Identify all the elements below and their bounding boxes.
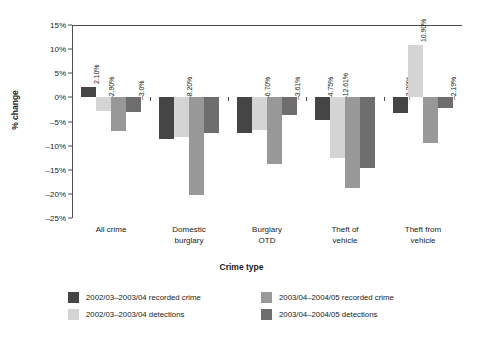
y-tick-mark — [68, 193, 72, 194]
legend-item: 2003/04–2004/05 recorded crime — [261, 289, 448, 306]
legend-label: 2002/03–2003/04 detections — [86, 310, 184, 319]
bar — [423, 97, 438, 143]
y-tick-mark — [68, 145, 72, 146]
y-axis-title: % change — [10, 70, 20, 150]
bar-value-label: 10.90% — [420, 19, 427, 42]
bar-value-label: –2.19% — [450, 77, 457, 100]
y-tick-label: 5% — [54, 69, 66, 78]
bar — [267, 97, 282, 163]
y-tick-label: 15% — [50, 21, 66, 30]
bar-value-label: –3.0% — [138, 81, 145, 100]
chart-legend: 2002/03–2003/04 recorded crime2003/04–20… — [68, 289, 468, 323]
y-tick-mark — [68, 73, 72, 74]
y-tick-mark — [68, 97, 72, 98]
bar — [174, 97, 189, 137]
bar-value-label: –20.19% — [201, 73, 208, 100]
bar — [237, 97, 252, 133]
bar — [189, 97, 204, 194]
category-tick-mark — [306, 97, 307, 101]
bar-value-label: –3.61% — [294, 77, 301, 100]
bar-group: 2.10%–2.90%–6.95%–3.0% — [81, 25, 141, 218]
legend-swatch — [261, 292, 272, 303]
bar — [159, 97, 174, 138]
bar-value-label: –18.76% — [357, 73, 364, 100]
category-label-line: vehicle — [373, 235, 473, 246]
bar — [111, 97, 126, 131]
bar-group: –7.40%–6.70%–13.78%–3.61% — [237, 25, 297, 218]
category-tick-mark — [228, 97, 229, 101]
bar-chart: % change Crime type 15%10%5%0%–5%–10%–15… — [0, 0, 483, 341]
x-axis-title: Crime type — [0, 262, 483, 272]
y-tick-mark — [68, 25, 72, 26]
legend-item: 2003/04–2004/05 detections — [261, 306, 448, 323]
bar-group: –3.20%10.90%–9.51%–2.19% — [393, 25, 453, 218]
bar-value-label: –7.29% — [216, 77, 223, 100]
category-tick-mark — [384, 97, 385, 101]
y-tick-label: –15% — [46, 165, 66, 174]
y-tick-label: –20% — [46, 189, 66, 198]
bar-value-label: –13.78% — [279, 73, 286, 100]
legend-item: 2002/03–2003/04 detections — [68, 306, 255, 323]
bar — [360, 97, 375, 168]
bar — [81, 87, 96, 97]
bar — [315, 97, 330, 120]
plot-area: 15%10%5%0%–5%–10%–15%–20%–25% 2.10%–2.90… — [72, 25, 462, 218]
legend-swatch — [261, 309, 272, 320]
bar — [345, 97, 360, 188]
bar-group: –8.60%–8.20%–20.19%–7.29% — [159, 25, 219, 218]
y-axis-line — [72, 25, 73, 218]
bar — [252, 97, 267, 129]
bar-value-label: 2.10% — [93, 65, 100, 84]
y-tick-mark — [68, 121, 72, 122]
y-tick-label: 10% — [50, 45, 66, 54]
legend-swatch — [68, 309, 79, 320]
y-tick-label: 0% — [54, 93, 66, 102]
legend-label: 2003/04–2004/05 recorded crime — [279, 293, 394, 302]
bar-value-label: –14.64% — [372, 73, 379, 100]
legend-item: 2002/03–2003/04 recorded crime — [68, 289, 255, 306]
y-tick-mark — [68, 49, 72, 50]
category-label-line: Theft from — [373, 224, 473, 235]
legend-swatch — [68, 292, 79, 303]
bar — [330, 97, 345, 158]
category-label: Theft fromvehicle — [373, 224, 473, 246]
bar — [408, 45, 423, 98]
bar-group: –4.75%–12.61%–18.76%–14.64% — [315, 25, 375, 218]
legend-label: 2003/04–2004/05 detections — [279, 310, 377, 319]
y-tick-mark — [68, 218, 72, 219]
y-tick-label: –10% — [46, 141, 66, 150]
y-tick-label: –5% — [50, 117, 66, 126]
legend-label: 2002/03–2003/04 recorded crime — [86, 293, 201, 302]
category-tick-mark — [150, 97, 151, 101]
y-tick-label: –25% — [46, 214, 66, 223]
bar-value-label: –12.61% — [342, 73, 349, 100]
bar — [204, 97, 219, 132]
y-tick-mark — [68, 169, 72, 170]
